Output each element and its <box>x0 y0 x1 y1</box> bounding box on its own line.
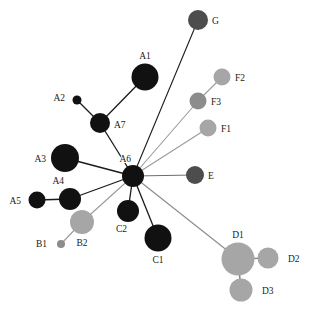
network-node-F1[interactable] <box>200 120 217 137</box>
node-label-F1: F1 <box>221 124 231 134</box>
network-canvas: GA1F2A2F3A7F1A3A6EA4A5C2B2C1B1D1D2D3 <box>0 0 314 316</box>
node-label-A3: A3 <box>34 154 46 164</box>
node-label-A7: A7 <box>114 120 126 130</box>
node-label-D1: D1 <box>232 230 244 240</box>
node-label-D2: D2 <box>288 254 300 264</box>
network-node-G[interactable] <box>188 10 208 30</box>
network-node-B2[interactable] <box>70 210 94 234</box>
network-node-A4[interactable] <box>59 188 81 210</box>
node-label-A5: A5 <box>9 196 21 206</box>
network-node-A6[interactable] <box>122 165 144 187</box>
node-label-A2: A2 <box>53 93 65 103</box>
node-label-A1: A1 <box>139 51 151 61</box>
network-node-C1[interactable] <box>145 225 172 252</box>
network-node-A1[interactable] <box>132 64 159 91</box>
network-node-D2[interactable] <box>258 248 279 269</box>
node-label-E: E <box>208 171 214 181</box>
network-node-B1[interactable] <box>57 240 65 248</box>
network-node-A2[interactable] <box>73 96 82 105</box>
network-node-F2[interactable] <box>214 69 231 86</box>
network-node-C2[interactable] <box>117 200 139 222</box>
node-label-A4: A4 <box>52 176 64 186</box>
network-node-D3[interactable] <box>230 279 253 302</box>
node-label-B2: B2 <box>76 238 87 248</box>
network-node-E[interactable] <box>186 166 204 184</box>
node-label-A6: A6 <box>119 154 131 164</box>
node-label-G: G <box>212 16 219 26</box>
node-label-B1: B1 <box>36 239 47 249</box>
node-label-D3: D3 <box>262 286 274 296</box>
network-node-A3[interactable] <box>51 144 79 172</box>
node-label-F2: F2 <box>235 73 245 83</box>
network-node-A5[interactable] <box>29 192 46 209</box>
network-node-F3[interactable] <box>190 93 207 110</box>
node-label-C1: C1 <box>152 255 163 265</box>
node-label-C2: C2 <box>116 224 127 234</box>
diagram-background <box>0 0 314 316</box>
node-label-F3: F3 <box>211 97 221 107</box>
haplotype-network-diagram: GA1F2A2F3A7F1A3A6EA4A5C2B2C1B1D1D2D3 <box>0 0 314 316</box>
network-node-D1[interactable] <box>222 243 255 276</box>
network-node-A7[interactable] <box>90 113 110 133</box>
